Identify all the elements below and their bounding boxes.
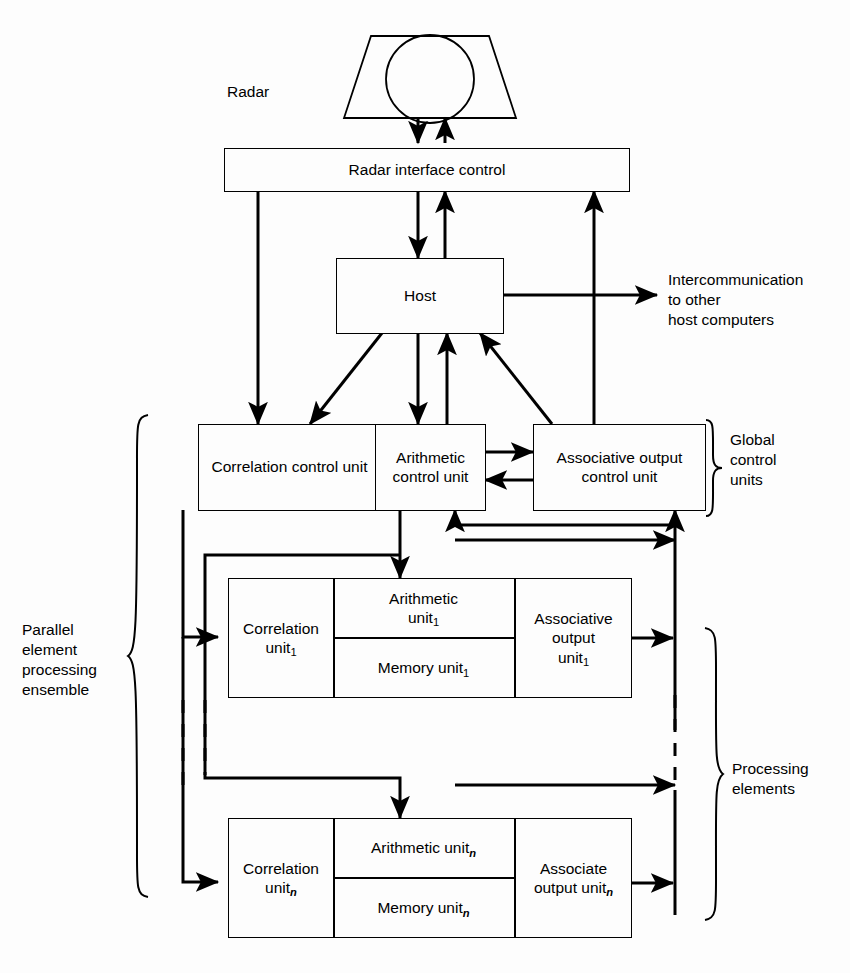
- pen-memory-unit[interactable]: Memory unitn: [333, 877, 514, 939]
- pen-correlation-unit[interactable]: Correlation unitn: [229, 819, 333, 937]
- pe1-memory-unit-label: Memory unit1: [378, 658, 470, 677]
- pe1-memory-subscript: 1: [463, 667, 469, 679]
- pen-output-subscript: n: [606, 886, 613, 898]
- pe1-memory-unit[interactable]: Memory unit1: [333, 637, 514, 699]
- pe1-correlation-unit-label: Correlation unit1: [243, 619, 319, 657]
- pen-associate-output-unit[interactable]: Associate output unitn: [514, 819, 633, 937]
- box-radar-interface-control[interactable]: Radar interface control: [224, 148, 630, 192]
- pe1-output-subscript: 1: [583, 656, 589, 668]
- label-global-control-units: Global control units: [730, 430, 777, 490]
- wire-bus-to-arithmetic-cu: [455, 510, 675, 525]
- box-host[interactable]: Host: [336, 258, 504, 334]
- box-correlation-control-unit[interactable]: Correlation control unit: [198, 424, 381, 511]
- wire-correlation-cu-to-pe1-correlation: [183, 510, 218, 637]
- label-parallel-element-processing-ensemble: Parallel element processing ensemble: [22, 620, 97, 701]
- pen-arithmetic-subscript: n: [469, 847, 476, 859]
- pen-memory-unit-label: Memory unitn: [377, 898, 469, 917]
- radar-dish-circle: [386, 35, 474, 123]
- host-label: Host: [404, 287, 436, 306]
- box-arithmetic-control-unit[interactable]: Arithmetic control unit: [375, 424, 486, 511]
- pe1-correlation-subscript: 1: [290, 646, 296, 658]
- pe1-associative-output-unit-label: Associative output unit1: [534, 609, 612, 667]
- wire-correlation-cu-to-pen-correlation: [183, 637, 218, 882]
- pe1-associative-output-unit[interactable]: Associative output unit1: [514, 579, 633, 697]
- pen-arithmetic-unit[interactable]: Arithmetic unitn: [333, 819, 514, 877]
- box-associative-output-control-unit[interactable]: Associative output control unit: [533, 424, 706, 511]
- processing-element-1[interactable]: Correlation unit1 Arithmetic unit1 Memor…: [228, 578, 632, 698]
- pen-correlation-unit-label: Correlation unitn: [243, 859, 319, 897]
- arithmetic-control-unit-label: Arithmetic control unit: [376, 449, 485, 487]
- associative-output-control-unit-label: Associative output control unit: [534, 449, 705, 487]
- wire-host-to-correlation-cu: [310, 333, 382, 424]
- pe1-arithmetic-unit[interactable]: Arithmetic unit1: [333, 579, 514, 637]
- pen-correlation-subscript: n: [290, 886, 297, 898]
- pe1-arithmetic-subscript: 1: [433, 616, 439, 628]
- brace-global-control-units: [706, 420, 722, 516]
- pen-arithmetic-unit-label: Arithmetic unitn: [371, 838, 476, 857]
- brace-parallel-ensemble: [128, 415, 148, 897]
- radar-dish-body: [344, 36, 516, 118]
- pen-associate-output-unit-label: Associate output unitn: [534, 859, 613, 897]
- pen-memory-subscript: n: [463, 907, 470, 919]
- correlation-control-unit-label: Correlation control unit: [212, 458, 368, 477]
- label-intercommunication: Intercommunication to other host compute…: [668, 270, 803, 330]
- wire-associative-cu-to-host: [480, 333, 552, 424]
- brace-processing-elements: [705, 628, 723, 920]
- radar-interface-control-label: Radar interface control: [349, 161, 506, 180]
- processing-element-n[interactable]: Correlation unitn Arithmetic unitn Memor…: [228, 818, 632, 938]
- label-radar: Radar: [227, 82, 269, 102]
- pe1-correlation-unit[interactable]: Correlation unit1: [229, 579, 333, 697]
- pe1-arithmetic-unit-label: Arithmetic unit1: [389, 589, 458, 627]
- diagram-canvas: Radar interface control Host Correlation…: [0, 0, 850, 973]
- label-processing-elements: Processing elements: [732, 759, 809, 799]
